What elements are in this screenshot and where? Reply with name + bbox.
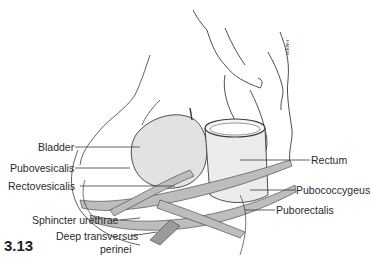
label-puborectalis: Puborectalis — [276, 204, 334, 216]
label-pubovesicalis: Pubovesicalis — [10, 162, 74, 174]
bladder-shape — [131, 115, 207, 188]
artist-signature: HADER — [285, 40, 290, 56]
label-bladder: Bladder — [38, 141, 74, 153]
label-pubococcygeus: Pubococcygeus — [296, 184, 370, 196]
label-perinei: perinei — [100, 243, 132, 255]
figure-number: 3.13 — [4, 237, 33, 254]
label-rectum: Rectum — [311, 154, 347, 166]
label-sphincter-urethrae: Sphincter urethrae — [32, 214, 118, 226]
anatomy-figure: HADER Bladder Pubovesicalis Rectovesical… — [0, 0, 371, 263]
label-rectovesicalis: Rectovesicalis — [8, 180, 75, 192]
label-deep-transversus: Deep transversus — [56, 230, 138, 242]
